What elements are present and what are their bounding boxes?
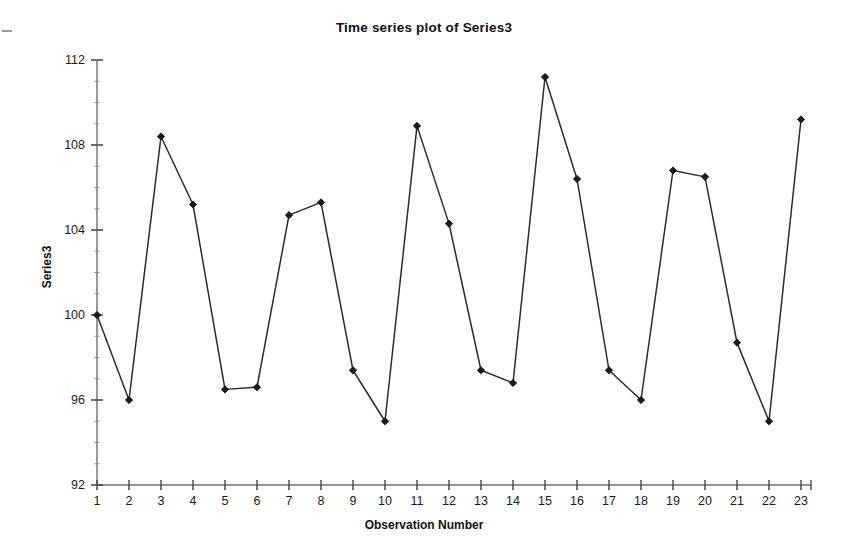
x-tick-label: 23: [788, 494, 814, 508]
x-tick-label: 18: [628, 494, 654, 508]
x-tick-label: 4: [180, 494, 206, 508]
x-tick-label: 5: [212, 494, 238, 508]
x-tick-label: 10: [372, 494, 398, 508]
x-tick-label: 14: [500, 494, 526, 508]
x-tick-label: 13: [468, 494, 494, 508]
x-tick-label: 12: [436, 494, 462, 508]
y-tick-label: 112: [45, 53, 85, 67]
y-tick-label: 108: [45, 138, 85, 152]
x-tick-label: 16: [564, 494, 590, 508]
data-series-series3: [97, 77, 801, 421]
x-tick-label: 21: [724, 494, 750, 508]
plot-area: 9296100104108112 12345678910111213141516…: [0, 0, 848, 545]
x-tick-label: 7: [276, 494, 302, 508]
x-tick-label: 6: [244, 494, 270, 508]
x-axis-title: Observation Number: [0, 518, 848, 532]
x-tick-label: 20: [692, 494, 718, 508]
x-tick-label: 8: [308, 494, 334, 508]
x-tick-label: 1: [84, 494, 110, 508]
y-axis-title: Series3: [40, 212, 54, 322]
x-tick-label: 17: [596, 494, 622, 508]
x-tick-label: 15: [532, 494, 558, 508]
x-tick-label: 2: [116, 494, 142, 508]
y-tick-label: 96: [45, 393, 85, 407]
axes: [91, 60, 811, 490]
chart-figure: Time series plot of Series3 929610010410…: [0, 0, 848, 545]
line-chart-svg: [0, 0, 848, 545]
x-tick-label: 19: [660, 494, 686, 508]
y-tick-label: 92: [45, 478, 85, 492]
x-tick-label: 22: [756, 494, 782, 508]
x-tick-label: 11: [404, 494, 430, 508]
x-tick-label: 3: [148, 494, 174, 508]
x-tick-label: 9: [340, 494, 366, 508]
